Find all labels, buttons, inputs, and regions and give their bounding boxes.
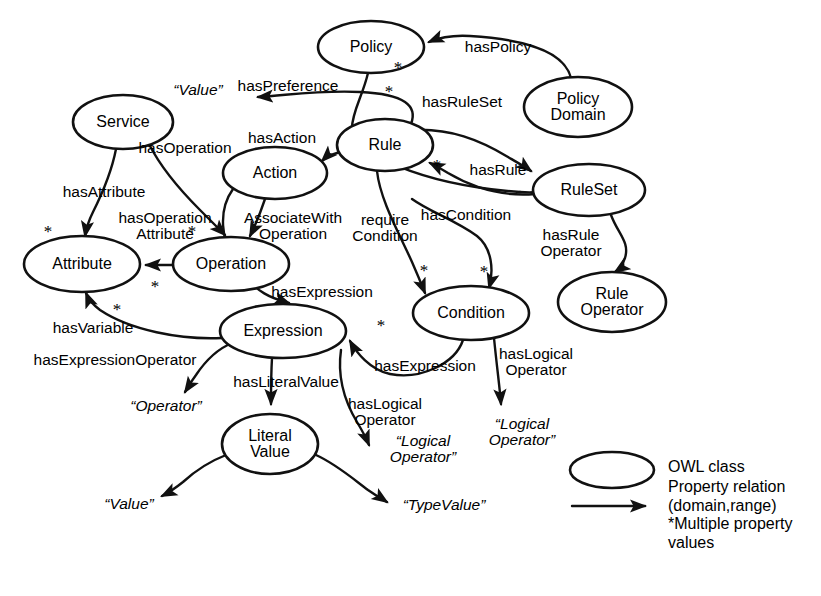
edge-hasvariable — [86, 293, 222, 338]
node-rule[interactable] — [337, 119, 433, 171]
node-expression[interactable] — [220, 304, 346, 358]
edge-expression-haslogicaloperator — [340, 350, 369, 445]
edge-requirecondition — [377, 171, 425, 293]
node-operation[interactable] — [173, 237, 289, 291]
node-action[interactable] — [223, 147, 327, 199]
node-policy-domain[interactable] — [524, 77, 632, 137]
edge-hasruleoperator — [611, 215, 626, 272]
node-attribute[interactable] — [24, 236, 140, 292]
node-policy[interactable] — [318, 21, 424, 73]
edge-literalvalue-value — [162, 455, 226, 496]
owl-ontology-diagram: Policy Policy Domain Service Rule Action… — [0, 0, 821, 596]
edge-haspolicy — [429, 36, 571, 78]
node-condition[interactable] — [413, 286, 529, 340]
diagram-canvas — [0, 0, 821, 596]
node-ruleset[interactable] — [533, 164, 645, 216]
legend-graphics — [570, 452, 654, 506]
edge-hasattribute — [85, 149, 116, 236]
edge-hasaction — [322, 152, 340, 161]
edge-hasrule — [430, 163, 535, 194]
edge-condition-hasexpression — [350, 340, 463, 375]
edge-condition-haslogicaloperator — [494, 338, 501, 404]
edge-literalvalue-typevalue — [316, 455, 387, 502]
node-layer — [24, 21, 666, 474]
node-literal-value[interactable] — [222, 414, 318, 474]
edge-hasexpressionoperator — [185, 343, 232, 392]
edge-hasoperation — [149, 144, 225, 235]
legend-owl-class-ellipse — [570, 452, 654, 488]
node-rule-operator[interactable] — [558, 272, 666, 332]
edge-hasliteralvalue — [271, 358, 272, 404]
edge-hascondition — [412, 199, 491, 288]
edge-associatewithoperation — [250, 199, 265, 236]
node-service[interactable] — [73, 95, 173, 149]
